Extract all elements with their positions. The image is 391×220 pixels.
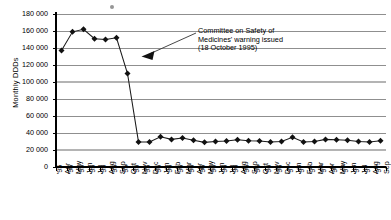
x-tick-label-year: '96 (244, 165, 252, 174)
scan-artifact-dot (110, 5, 114, 9)
x-tick-label-year: '97 (288, 165, 296, 174)
x-tick-label-year: '97 (354, 165, 362, 174)
x-tick-label-year: '95 (101, 165, 109, 174)
x-tick-label-year: '95 (90, 165, 98, 174)
x-tick-label-year: '96 (156, 165, 164, 174)
x-tick-label-year: '96 (277, 165, 285, 174)
annotation-csm-warning: Committee on Safety ofMedicines' warning… (198, 27, 283, 53)
x-tick-label-year: '95 (145, 165, 153, 174)
x-tick-label-year: '95 (57, 165, 65, 174)
x-tick-label-year: '97 (332, 165, 340, 174)
x-tick-label-year: '97 (321, 165, 329, 174)
x-tick-label-year: '96 (200, 165, 208, 174)
x-tick-label-year: '95 (112, 165, 120, 174)
x-tick-label-year: '96 (255, 165, 263, 174)
x-tick-label-year: '96 (167, 165, 175, 174)
x-tick-label-year: '97 (343, 165, 351, 174)
x-tick-label-year: '95 (68, 165, 76, 174)
x-tick-label-year: '95 (79, 165, 87, 174)
x-tick-label-year: '96 (266, 165, 274, 174)
x-tick-label-year: '96 (211, 165, 219, 174)
x-tick-label: Sep (384, 161, 391, 174)
x-tick-label-year: '95 (123, 165, 131, 174)
x-tick-label-year: '97 (310, 165, 318, 174)
x-tick-label-year: '97 (365, 165, 373, 174)
x-tick-label-year: '97 (376, 165, 384, 174)
x-tick-label-year: '96 (222, 165, 230, 174)
x-tick-label-year: '97 (299, 165, 307, 174)
x-tick-label-year: '96 (178, 165, 186, 174)
x-tick-label-year: '96 (233, 165, 241, 174)
x-tick-label-year: '96 (189, 165, 197, 174)
x-tick-label-year: '95 (134, 165, 142, 174)
annotation-line: (18 October 1995) (198, 44, 283, 53)
